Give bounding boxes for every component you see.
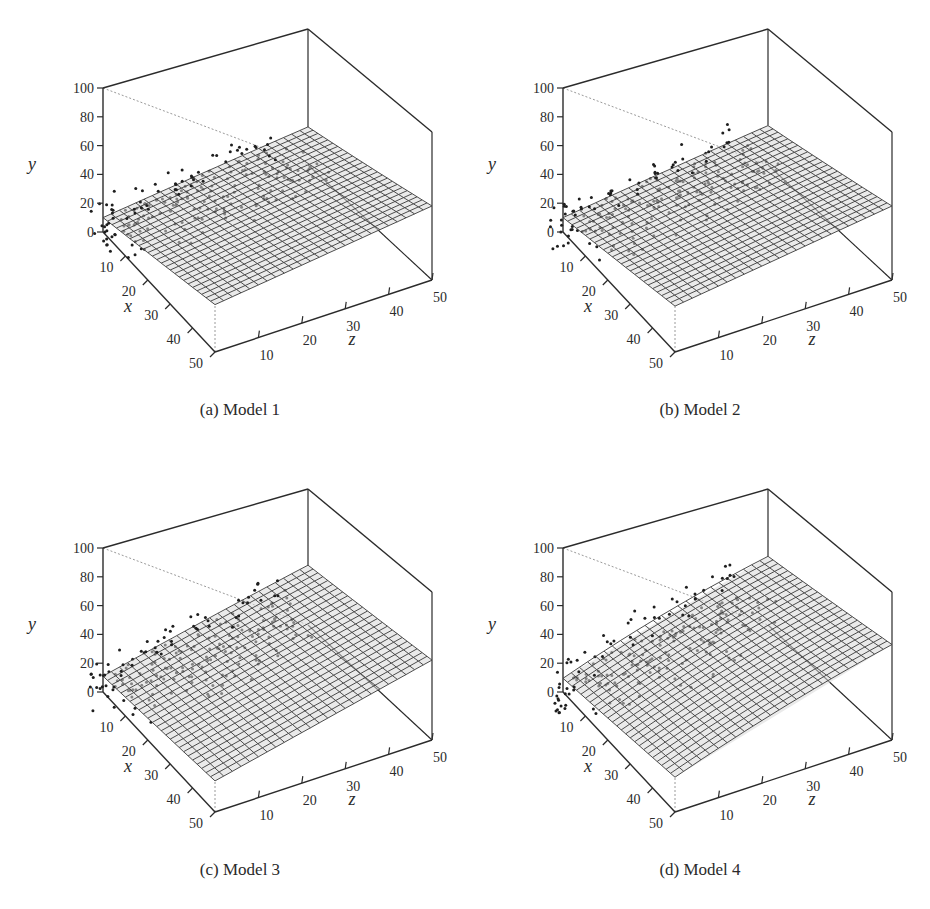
z-tick-label: 50 xyxy=(433,750,447,765)
data-point xyxy=(577,670,580,673)
z-tick xyxy=(718,791,719,798)
data-point xyxy=(576,659,579,662)
surface-plot-model-3: 020406080100y1020304050x1020304050z xyxy=(10,460,470,860)
data-point xyxy=(191,176,194,179)
data-point xyxy=(565,661,568,664)
data-point xyxy=(235,616,238,619)
data-point xyxy=(562,244,565,247)
data-point xyxy=(105,684,108,687)
data-point xyxy=(567,658,570,661)
data-point xyxy=(140,650,143,653)
data-point xyxy=(215,154,218,157)
data-point xyxy=(726,577,729,580)
x-tick-label: 10 xyxy=(559,720,573,735)
data-point xyxy=(654,177,657,180)
top-right-edge xyxy=(768,29,892,132)
data-point xyxy=(694,597,697,600)
x-tick xyxy=(625,304,630,309)
data-point xyxy=(107,663,110,666)
z-tick xyxy=(258,791,259,798)
data-point xyxy=(687,614,690,617)
data-point xyxy=(106,243,109,246)
data-point xyxy=(671,597,674,600)
data-point xyxy=(125,217,128,220)
panel-model-3: 020406080100y1020304050x1020304050z (c) … xyxy=(10,460,470,909)
data-point xyxy=(684,604,687,607)
data-point xyxy=(91,709,94,712)
x-tick-label: 40 xyxy=(167,332,181,347)
z-tick xyxy=(302,316,303,323)
x-tick-label: 10 xyxy=(99,260,113,275)
x-tick-label: 10 xyxy=(99,720,113,735)
y-tick-label: 40 xyxy=(80,627,94,642)
x-tick xyxy=(670,352,675,357)
data-point xyxy=(192,178,195,181)
z-tick xyxy=(849,287,850,294)
data-point xyxy=(592,707,595,710)
top-right-edge xyxy=(308,489,432,592)
data-point xyxy=(208,625,211,628)
data-point xyxy=(131,244,134,247)
data-point xyxy=(574,214,577,217)
data-point xyxy=(155,651,158,654)
data-point xyxy=(629,636,632,639)
data-point xyxy=(676,600,679,603)
z-tick-label: 10 xyxy=(719,808,733,823)
data-point xyxy=(633,609,636,612)
data-point xyxy=(681,613,684,616)
x-tick xyxy=(648,328,653,333)
data-point xyxy=(236,149,239,152)
data-point xyxy=(105,203,108,206)
y-tick-label: 100 xyxy=(73,81,94,96)
data-point xyxy=(246,601,249,604)
data-point xyxy=(207,619,210,622)
data-point xyxy=(566,687,569,690)
z-tick xyxy=(389,747,390,754)
data-point xyxy=(245,148,248,151)
data-point xyxy=(671,165,674,168)
caption-model-4: (d) Model 4 xyxy=(470,860,930,880)
y-tick-label: 20 xyxy=(80,656,94,671)
data-point xyxy=(651,634,654,637)
y-tick-label: 40 xyxy=(540,167,554,182)
data-point xyxy=(627,622,630,625)
data-point xyxy=(558,711,561,714)
y-tick-label: 80 xyxy=(80,110,94,125)
data-point xyxy=(711,575,714,578)
data-point xyxy=(237,615,240,618)
z-tick xyxy=(805,302,806,309)
data-point xyxy=(140,206,143,209)
data-point xyxy=(598,258,601,261)
data-point xyxy=(733,575,736,578)
data-point xyxy=(247,596,250,599)
data-point xyxy=(551,247,554,250)
x-tick-label: 30 xyxy=(144,768,158,783)
data-point xyxy=(602,634,605,637)
data-point xyxy=(606,640,609,643)
data-point xyxy=(164,628,167,631)
fitted-surface-mesh xyxy=(103,127,432,305)
data-point xyxy=(567,235,570,238)
data-point xyxy=(617,204,620,207)
data-point xyxy=(563,203,566,206)
y-axis-label: y xyxy=(486,614,496,634)
data-point xyxy=(177,193,180,196)
x-tick xyxy=(210,812,215,817)
z-tick-label: 20 xyxy=(303,793,317,808)
data-point xyxy=(590,196,593,199)
data-point xyxy=(593,207,596,210)
x-axis-label: x xyxy=(583,296,592,316)
fitted-surface-mesh xyxy=(103,565,432,781)
data-point xyxy=(112,685,115,688)
data-point xyxy=(632,643,635,646)
data-point xyxy=(122,699,125,702)
data-point xyxy=(197,171,200,174)
top-back-edge xyxy=(563,489,768,548)
data-point xyxy=(636,193,639,196)
data-point xyxy=(263,148,266,151)
data-point xyxy=(565,205,568,208)
data-point xyxy=(196,613,199,616)
data-point xyxy=(558,686,561,689)
data-point xyxy=(702,589,705,592)
z-tick xyxy=(849,747,850,754)
